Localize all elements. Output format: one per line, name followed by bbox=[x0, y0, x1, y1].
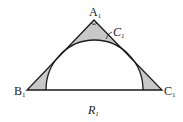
region-label-r1: R1 bbox=[88, 104, 99, 120]
vertex-label-c1: C1 bbox=[164, 85, 176, 101]
arc-label-c1: C1 bbox=[113, 26, 125, 42]
vertex-label-b1: B1 bbox=[14, 85, 26, 101]
vertex-label-a1: A1 bbox=[89, 6, 101, 22]
semicircle-interior bbox=[46, 40, 143, 90]
